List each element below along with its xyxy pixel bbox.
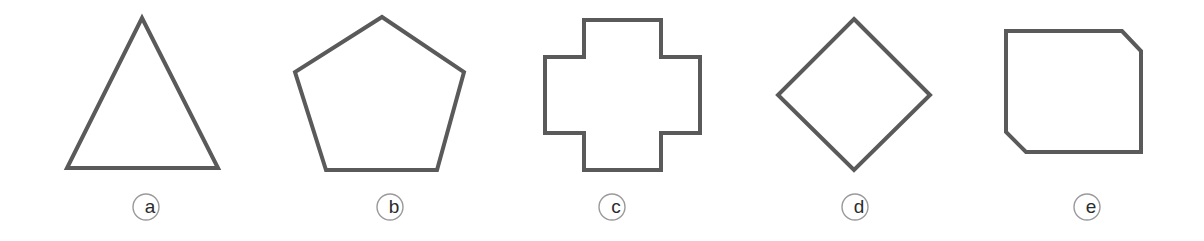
shape-group-d: d: [778, 19, 930, 220]
shape-group-c: c: [545, 20, 700, 220]
cross-outline: [545, 20, 700, 170]
shapes-canvas: abcde: [0, 0, 1204, 241]
shape-group-b: b: [295, 17, 464, 220]
chamfered-rectangle-outline: [1006, 31, 1141, 152]
diamond-outline: [778, 19, 930, 170]
shape-group-e: e: [1006, 31, 1141, 220]
label-text-c: c: [611, 196, 621, 217]
label-text-d: d: [854, 196, 865, 217]
pentagon-outline: [295, 17, 464, 170]
label-text-a: a: [145, 196, 156, 217]
label-text-e: e: [1086, 196, 1097, 217]
geometric-shapes-figure: abcde: [0, 0, 1204, 241]
label-text-b: b: [389, 196, 400, 217]
triangle-outline: [67, 18, 218, 168]
shape-group-a: a: [67, 18, 218, 220]
